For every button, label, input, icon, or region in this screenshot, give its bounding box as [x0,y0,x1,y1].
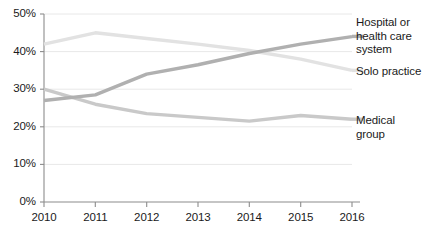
gridlines [44,14,352,164]
series-label-medical-group: Medical group [356,114,424,141]
data-series [44,33,352,121]
series-label-hospital-line2: health care [356,30,424,44]
series-label-solo-practice: Solo practice [356,65,424,79]
x-axis-label-2016: 2016 [332,212,372,224]
series-line-hospital [44,37,352,101]
x-axis-label-2011: 2011 [75,212,115,224]
y-axis-label-50: 50% [0,8,36,20]
x-axis-label-2014: 2014 [229,212,269,224]
y-axis-label-40: 40% [0,46,36,58]
line-chart: 50% 40% 30% 20% 10% 0% 2010 2011 2012 20… [0,0,424,242]
x-axis-label-2012: 2012 [127,212,167,224]
y-axis-label-0: 0% [0,196,36,208]
x-axis-label-2013: 2013 [178,212,218,224]
y-axis-label-20: 20% [0,121,36,133]
series-label-hospital-line3: system [356,43,424,57]
y-axis-label-30: 30% [0,83,36,95]
series-label-hospital: Hospital or health care system [356,16,424,57]
y-axis-label-10: 10% [0,158,36,170]
x-axis-label-2015: 2015 [281,212,321,224]
x-axis-label-2010: 2010 [24,212,64,224]
series-label-hospital-line1: Hospital or [356,16,424,30]
